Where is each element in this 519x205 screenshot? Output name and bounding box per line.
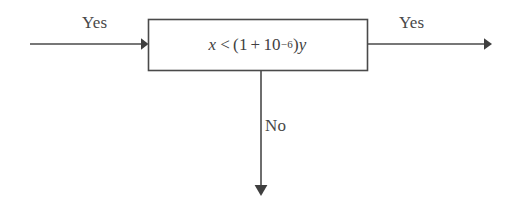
outgoing-arrow-right-head (484, 38, 492, 50)
formula-lhs-variable: x (208, 35, 217, 55)
decision-condition-formula: x<(1+10−6)y (148, 19, 368, 71)
outgoing-arrow-right (368, 38, 492, 50)
edge-label-outgoing-yes: Yes (399, 14, 424, 31)
edge-label-outgoing-no: No (265, 117, 286, 134)
formula-plus-operator: + (248, 35, 264, 55)
formula-relation-operator: < (217, 35, 233, 55)
incoming-arrow-left (30, 38, 149, 50)
formula-power-base: 10 (263, 35, 280, 55)
formula-base-term: 1 (239, 35, 248, 55)
formula-rhs-variable: y (299, 35, 308, 55)
flowchart-diagram: x<(1+10−6)y Yes Yes No (0, 0, 519, 205)
edge-label-incoming-yes: Yes (82, 14, 107, 31)
outgoing-arrow-bottom-head (255, 185, 268, 196)
